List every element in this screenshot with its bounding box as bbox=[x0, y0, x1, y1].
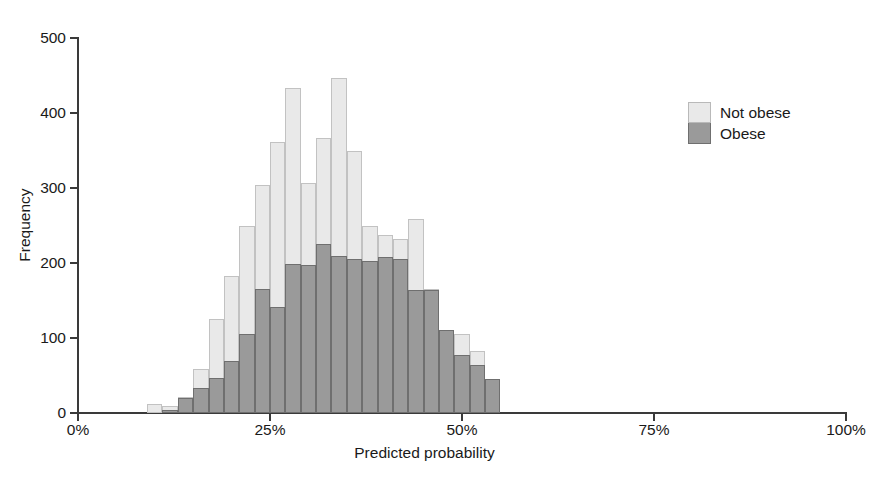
histogram-bar bbox=[301, 265, 316, 413]
x-tick-label: 50% bbox=[446, 422, 477, 438]
histogram-bar bbox=[439, 330, 454, 413]
histogram-bar bbox=[285, 264, 300, 413]
legend-label-not-obese: Not obese bbox=[720, 105, 791, 121]
y-tick bbox=[70, 337, 77, 339]
x-tick-label: 75% bbox=[638, 422, 669, 438]
histogram-bar bbox=[393, 259, 408, 413]
x-axis-title-text: Predicted probability bbox=[354, 444, 494, 461]
x-tick bbox=[653, 414, 655, 421]
histogram-bar bbox=[454, 355, 469, 414]
x-tick bbox=[461, 414, 463, 421]
y-tick bbox=[70, 37, 77, 39]
y-tick bbox=[70, 412, 77, 414]
histogram-bar bbox=[224, 361, 239, 414]
y-tick bbox=[70, 187, 77, 189]
histogram-bar bbox=[209, 378, 224, 413]
x-tick-label: 25% bbox=[254, 422, 285, 438]
legend-label-obese: Obese bbox=[720, 126, 766, 142]
y-tick bbox=[70, 262, 77, 264]
histogram-bar bbox=[347, 259, 362, 413]
x-tick-label: 100% bbox=[826, 422, 866, 438]
legend-swatch-not-obese bbox=[688, 102, 711, 123]
histogram-bar bbox=[362, 261, 377, 413]
histogram-bar bbox=[331, 256, 346, 414]
x-tick-label: 0% bbox=[67, 422, 89, 438]
y-tick bbox=[70, 112, 77, 114]
x-tick bbox=[77, 414, 79, 421]
x-axis-title: Predicted probability bbox=[0, 444, 889, 462]
legend-swatch-obese bbox=[688, 123, 711, 144]
histogram-bar bbox=[178, 398, 193, 413]
histogram-bar bbox=[255, 289, 270, 413]
legend-item-obese: Obese bbox=[688, 123, 791, 144]
histogram-bar bbox=[408, 290, 423, 413]
histogram-bar bbox=[470, 365, 485, 413]
histogram-bar bbox=[485, 379, 500, 414]
histogram-bar bbox=[424, 290, 439, 413]
histogram-bar bbox=[270, 307, 285, 414]
histogram-bar bbox=[378, 257, 393, 413]
x-tick bbox=[845, 414, 847, 421]
plot-area bbox=[78, 38, 846, 413]
y-axis-title: Frequency bbox=[16, 38, 36, 413]
x-tick bbox=[269, 414, 271, 421]
histogram-bar bbox=[162, 410, 177, 413]
histogram-bar bbox=[239, 334, 254, 413]
histogram-bar bbox=[316, 244, 331, 413]
histogram-bar bbox=[147, 404, 162, 413]
chart-legend: Not obese Obese bbox=[688, 102, 791, 144]
histogram-bar bbox=[193, 388, 208, 413]
histogram-figure: 0100200300400500 0%25%50%75%100% Frequen… bbox=[0, 0, 889, 477]
legend-item-not-obese: Not obese bbox=[688, 102, 791, 123]
